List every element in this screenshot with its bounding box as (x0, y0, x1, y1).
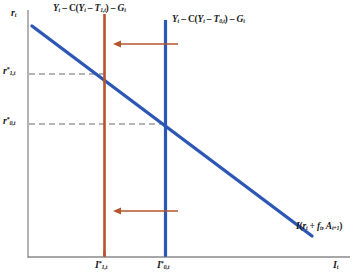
y-tick-label-r-star-1: r*1,t (3, 66, 15, 77)
upper-shift-arrow (113, 41, 178, 48)
lower-shift-arrow (113, 208, 178, 215)
investment-demand-curve (32, 26, 312, 236)
investment-curve-label: I(rt + ft, At+1) (296, 222, 342, 232)
saving-line-initial-label: Yt – C(Yt – T0,t) – Gt (172, 15, 245, 25)
diagram-canvas (0, 0, 358, 276)
x-tick-label-i-star-1: I*1,t (95, 260, 107, 271)
economics-diagram: rt It Yt – C(Yt – T1,t) – Gt Yt – C(Yt –… (0, 0, 358, 276)
saving-line-new-label: Yt – C(Yt – T1,t) – Gt (53, 4, 126, 14)
x-axis-label: It (333, 260, 338, 271)
y-axis-label: rt (11, 8, 16, 19)
x-tick-label-i-star-0: I*0,t (157, 260, 169, 271)
y-tick-label-r-star-0: r*0,t (3, 116, 15, 127)
